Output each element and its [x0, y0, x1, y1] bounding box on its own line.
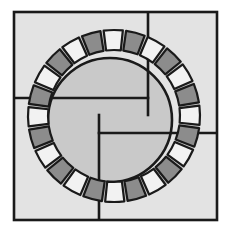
ring-segment-0-light [104, 30, 123, 50]
ring-segment-18-light [28, 107, 48, 126]
ring-segment-12-light [105, 182, 124, 202]
paving-pattern-figure [0, 0, 229, 234]
ring-segment-6-light [180, 106, 200, 125]
figure-root: Circular paving pattern in a square fram… [0, 0, 229, 234]
